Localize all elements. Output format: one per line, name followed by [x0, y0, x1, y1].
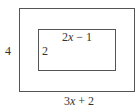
inner-width-label: 2x − 1 [62, 31, 92, 43]
inner-height-label: 2 [42, 45, 48, 57]
outer-width-label: 3x + 2 [64, 95, 94, 107]
outer-height-label: 4 [5, 45, 11, 57]
